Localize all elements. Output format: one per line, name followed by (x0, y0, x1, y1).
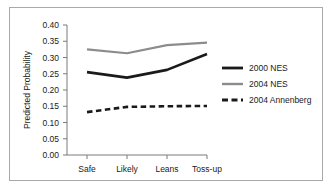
legend-label-2000-nes: 2000 NES (249, 63, 288, 73)
y-tick-label: 0.35 (42, 36, 59, 46)
line-chart: 0.40 0.35 0.30 0.25 0.20 0.15 0.10 0.05 … (0, 0, 334, 190)
legend-label-2004-annenberg: 2004 Annenberg (249, 95, 312, 105)
x-tick-label-leans: Leans (155, 164, 178, 174)
data-series-group (87, 43, 207, 113)
legend: 2000 NES 2004 NES 2004 Annenberg (222, 63, 312, 105)
x-tick-label-likely: Likely (116, 164, 138, 174)
y-tick-label: 0.40 (42, 20, 59, 30)
series-line-2004-annenberg (87, 106, 207, 112)
y-tick-label: 0.20 (42, 85, 59, 95)
y-tick-labels: 0.40 0.35 0.30 0.25 0.20 0.15 0.10 0.05 … (42, 20, 59, 160)
y-tick-label: 0.10 (42, 118, 59, 128)
x-tick-labels: Safe Likely Leans Toss-up (78, 164, 222, 174)
y-tick-label: 0.30 (42, 53, 59, 63)
x-tick-label-tossup: Toss-up (192, 164, 222, 174)
x-tick-marks (87, 155, 207, 159)
y-tick-marks (63, 25, 67, 155)
y-tick-label: 0.15 (42, 101, 59, 111)
series-line-2004-nes (87, 43, 207, 54)
y-tick-label: 0.05 (42, 134, 59, 144)
figure-container: 0.40 0.35 0.30 0.25 0.20 0.15 0.10 0.05 … (0, 0, 334, 190)
series-line-2000-nes (87, 54, 207, 78)
y-tick-label: 0.25 (42, 69, 59, 79)
x-tick-label-safe: Safe (78, 164, 96, 174)
y-tick-label: 0.00 (42, 150, 59, 160)
y-axis-title: Predicted Probability (22, 50, 32, 129)
legend-label-2004-nes: 2004 NES (249, 79, 288, 89)
